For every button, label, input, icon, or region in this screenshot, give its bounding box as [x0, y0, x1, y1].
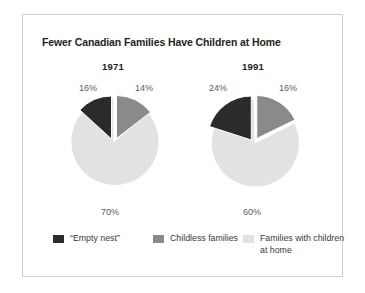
pct-label-with-children-1991: 60%	[243, 207, 261, 217]
legend-label-childless: Childless families	[170, 233, 241, 245]
pie-chart-1971: 1971 16% 14% 70%	[43, 61, 183, 221]
dark-swatch-icon	[53, 235, 64, 243]
chart-title: Fewer Canadian Families Have Children at…	[42, 36, 281, 48]
legend-item-with-children: Families with children at home	[243, 233, 348, 256]
legend-item-childless: Childless families	[153, 233, 241, 245]
pie-year-label-1991: 1991	[183, 61, 323, 72]
pct-label-with-children-1971: 70%	[101, 207, 119, 217]
pct-label-empty-nest-1971: 16%	[79, 83, 97, 93]
legend-label-with-children: Families with children at home	[260, 233, 348, 256]
legend-label-empty-nest: “Empty nest”	[70, 233, 143, 245]
pie-svg-1991	[183, 83, 323, 201]
pie-chart-1991: 1991 24% 16% 60%	[183, 61, 323, 221]
chart-legend: “Empty nest” Childless families Families…	[31, 233, 336, 273]
pct-label-childless-1991: 16%	[279, 83, 297, 93]
pie-svg-1971	[43, 83, 183, 201]
pie-year-label-1971: 1971	[43, 61, 183, 72]
light-swatch-icon	[243, 235, 254, 243]
legend-item-empty-nest: “Empty nest”	[53, 233, 143, 245]
pct-label-empty-nest-1991: 24%	[209, 83, 227, 93]
pct-label-childless-1971: 14%	[135, 83, 153, 93]
chart-frame: Fewer Canadian Families Have Children at…	[22, 14, 343, 277]
medium-swatch-icon	[153, 235, 164, 243]
